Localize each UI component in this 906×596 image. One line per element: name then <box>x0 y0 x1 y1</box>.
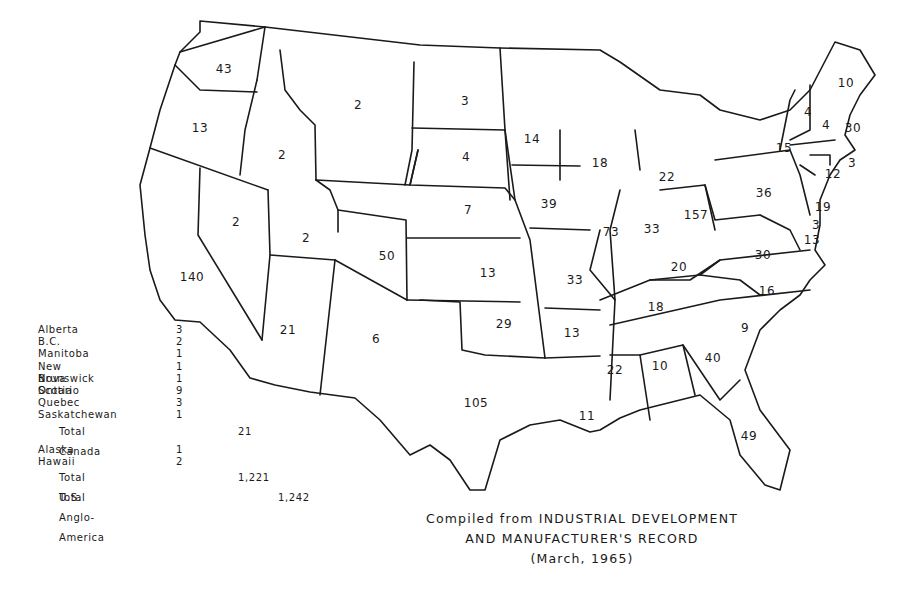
state-label-maine: 10 <box>838 76 854 90</box>
state-label-arkansas: 13 <box>564 326 580 340</box>
state-label-alabama: 10 <box>652 359 668 373</box>
state-label-rhode-island: 3 <box>848 156 856 170</box>
state-label-washington: 43 <box>216 62 232 76</box>
state-label-michigan: 22 <box>659 170 675 184</box>
state-label-oregon: 13 <box>192 121 208 135</box>
state-label-south-dakota: 4 <box>462 150 470 164</box>
state-label-pennsylvania: 36 <box>756 186 772 200</box>
state-label-louisiana: 11 <box>579 409 595 423</box>
state-label-delaware: 3 <box>812 218 820 232</box>
caption-line-2: AND MANUFACTURER'S RECORD <box>372 529 792 549</box>
state-label-texas: 105 <box>464 396 488 410</box>
state-label-missouri: 33 <box>567 273 583 287</box>
state-label-illinois: 73 <box>603 225 619 239</box>
state-label-ohio: 157 <box>684 208 708 222</box>
state-label-california: 140 <box>180 270 204 284</box>
state-label-oklahoma: 29 <box>496 317 512 331</box>
state-label-arizona: 21 <box>280 323 296 337</box>
state-label-vermont: 4 <box>804 105 812 119</box>
state-label-nebraska: 7 <box>464 203 472 217</box>
state-label-tennessee: 18 <box>648 300 664 314</box>
state-label-new-york: 15 <box>776 141 792 155</box>
state-label-montana: 2 <box>354 98 362 112</box>
caption-line-1: Compiled from INDUSTRIAL DEVELOPMENT <box>372 509 792 529</box>
state-label-north-dakota: 3 <box>461 94 469 108</box>
state-label-connecticut: 12 <box>825 167 841 181</box>
state-label-new-jersey: 19 <box>815 200 831 214</box>
state-label-north-carolina: 16 <box>759 284 775 298</box>
state-label-virginia: 30 <box>755 248 771 262</box>
state-label-kentucky: 20 <box>671 260 687 274</box>
state-label-kansas: 13 <box>480 266 496 280</box>
state-label-massachusetts: 30 <box>845 121 861 135</box>
state-label-florida: 49 <box>741 429 757 443</box>
us-state-map <box>0 0 906 596</box>
state-label-wisconsin: 18 <box>592 156 608 170</box>
state-label-south-carolina: 9 <box>741 321 749 335</box>
state-label-idaho: 2 <box>278 148 286 162</box>
state-label-new-hampshire: 4 <box>822 118 830 132</box>
state-label-georgia: 40 <box>705 351 721 365</box>
state-label-new-mexico: 6 <box>372 332 380 346</box>
state-label-maryland: 13 <box>804 233 820 247</box>
state-label-minnesota: 14 <box>524 132 540 146</box>
state-label-colorado: 50 <box>379 249 395 263</box>
caption-line-3: (March, 1965) <box>372 549 792 569</box>
state-label-utah: 2 <box>302 231 310 245</box>
state-label-iowa: 39 <box>541 197 557 211</box>
state-label-mississippi: 22 <box>607 363 623 377</box>
source-caption: Compiled from INDUSTRIAL DEVELOPMENT AND… <box>372 509 792 569</box>
state-label-indiana: 33 <box>644 222 660 236</box>
state-label-nevada: 2 <box>232 215 240 229</box>
